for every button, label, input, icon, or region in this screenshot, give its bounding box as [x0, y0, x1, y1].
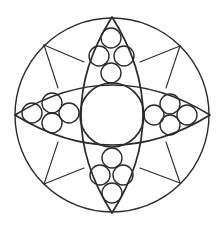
small-circle	[113, 165, 133, 185]
small-circle	[101, 28, 121, 48]
left-cluster	[22, 93, 79, 133]
small-circle	[160, 94, 180, 114]
star-points	[44, 45, 180, 184]
small-circle	[102, 183, 122, 203]
star-line-nw-0	[44, 45, 84, 62]
horizontal-lens	[15, 85, 210, 145]
star-line-nw-1	[44, 45, 58, 88]
star-line-se-0	[166, 142, 180, 183]
mandala-canvas	[0, 0, 224, 232]
small-circle	[101, 63, 121, 83]
right-cluster	[144, 94, 197, 135]
star-line-ne-0	[140, 46, 180, 62]
small-circle	[59, 103, 79, 123]
star-line-sw-0	[44, 142, 58, 184]
top-cluster	[89, 28, 134, 83]
inner-circle	[80, 83, 144, 147]
small-circle	[102, 148, 122, 168]
bottom-cluster	[90, 148, 133, 203]
small-circle	[177, 105, 197, 125]
mandala-diagram	[0, 0, 224, 232]
star-line-se-1	[140, 168, 180, 183]
star-line-sw-1	[44, 168, 84, 184]
star-line-ne-1	[166, 46, 180, 88]
inner-circle-ring	[80, 83, 144, 147]
small-circle-clusters	[22, 28, 197, 203]
